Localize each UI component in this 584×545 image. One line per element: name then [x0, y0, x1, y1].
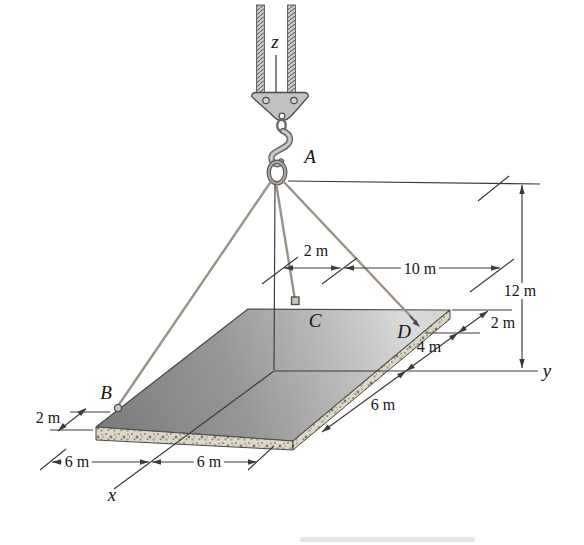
point-label-c: C	[309, 311, 322, 330]
scan-artifact	[300, 537, 475, 542]
dim-front-right: 6 m	[194, 454, 224, 470]
bracket-hole	[279, 113, 285, 119]
dim-b-offset: 2 m	[36, 410, 60, 426]
cable-ad	[282, 180, 416, 322]
pulley-bracket	[252, 93, 308, 121]
crane-hook-icon	[271, 131, 290, 164]
anchor-c	[292, 297, 300, 305]
dim-front-left: 6 m	[62, 454, 92, 470]
point-label-a: A	[304, 147, 316, 166]
dim-edge-top: 2 m	[491, 315, 515, 331]
axis-label-y: y	[543, 361, 551, 380]
anchor-b	[114, 404, 121, 411]
point-label-b: B	[100, 383, 112, 402]
dim-c-offset: 2 m	[304, 243, 328, 259]
dim-c-to-edge: 10 m	[401, 261, 439, 277]
crane-rope-left	[257, 5, 265, 95]
crane-rope-right	[288, 5, 296, 95]
cable-ac	[276, 183, 295, 300]
point-label-d: D	[397, 322, 411, 341]
rivet-icon	[291, 97, 297, 103]
figure-canvas: z A B C D x y 2 m 10 m 12 m 2 m 4 m 6 m …	[0, 0, 584, 545]
axis-label-z: z	[271, 32, 278, 51]
dim-edge-mid: 4 m	[417, 339, 441, 355]
dim-edge-bottom: 6 m	[371, 397, 395, 413]
rivet-icon	[263, 97, 269, 103]
axis-label-x: x	[108, 485, 116, 504]
dim-height: 12 m	[501, 283, 539, 299]
